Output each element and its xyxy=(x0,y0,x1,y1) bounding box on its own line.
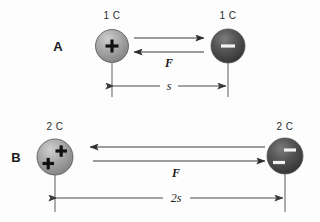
row-a: A 1 C 1 C xyxy=(53,10,245,97)
row-a-force-arrows: F xyxy=(134,38,204,70)
row-a-right-charge: 1 C xyxy=(211,10,245,97)
row-b-distance-label: 2s xyxy=(171,191,182,205)
row-b-force-arrows: F xyxy=(90,147,265,180)
row-a-distance-label: s xyxy=(167,79,172,93)
row-b-left-charge-label: 2 C xyxy=(46,121,63,132)
row-b-force-label: F xyxy=(171,166,180,180)
row-b: B 2 C 2 C xyxy=(11,121,303,212)
row-a-distance-dimension: s xyxy=(114,79,226,93)
positive-sphere-icon xyxy=(37,139,73,175)
row-a-letter: A xyxy=(53,39,63,54)
figure-canvas: A 1 C 1 C xyxy=(0,0,320,222)
row-a-right-charge-label: 1 C xyxy=(219,10,236,21)
row-b-distance-dimension: 2s xyxy=(57,191,283,205)
row-b-letter: B xyxy=(11,150,20,165)
row-b-right-charge-label: 2 C xyxy=(276,121,293,132)
row-a-left-charge: 1 C xyxy=(96,10,129,97)
negative-sphere-icon xyxy=(267,138,303,174)
row-a-left-charge-label: 1 C xyxy=(103,10,120,21)
coulomb-force-diagram: A 1 C 1 C xyxy=(0,0,320,222)
row-a-force-label: F xyxy=(164,56,173,70)
